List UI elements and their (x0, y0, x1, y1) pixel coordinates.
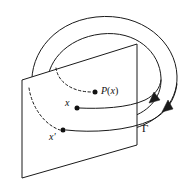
label-orbit-gamma: Γ (142, 122, 148, 134)
label-poincare-map: P(x) (100, 85, 118, 97)
label-P: P (100, 85, 107, 96)
figure-root: P(x) x x′ Γ (0, 0, 195, 186)
poincare-map-diagram: P(x) x x′ Γ (0, 0, 195, 186)
point-marker-x-prime (61, 128, 66, 133)
label-point-x-prime: x′ (48, 131, 56, 142)
transversal-section-plane (22, 44, 137, 178)
label-close-paren: ) (115, 85, 118, 97)
point-marker-P-of-x (93, 90, 98, 95)
point-marker-x (75, 106, 80, 111)
label-point-x: x (64, 97, 70, 108)
